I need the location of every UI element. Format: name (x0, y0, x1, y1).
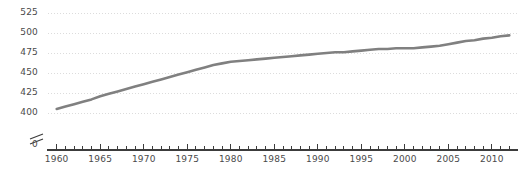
x-axis-tick-label: 1975 (167, 154, 207, 164)
data-series-line (57, 35, 510, 109)
x-axis-tick-label: 1995 (341, 154, 381, 164)
x-axis-tick-label: 1985 (254, 154, 294, 164)
y-axis-tick-label: 425 (2, 87, 38, 97)
x-axis-tick-label: 2010 (472, 154, 512, 164)
x-axis-tick-label: 1970 (124, 154, 164, 164)
x-axis (47, 144, 518, 150)
x-axis-tick-label: 1980 (211, 154, 251, 164)
x-axis-tick-label: 2000 (385, 154, 425, 164)
y-axis-tick-label: 450 (2, 67, 38, 77)
x-axis-tick-label: 1960 (37, 154, 77, 164)
gridlines (48, 13, 518, 113)
x-axis-tick-label: 2005 (428, 154, 468, 164)
line-chart: 4004254504755005250 19601965197019751980… (0, 0, 532, 174)
x-axis-tick-label: 1965 (80, 154, 120, 164)
chart-canvas (0, 0, 532, 174)
y-axis-tick-label: 525 (2, 7, 38, 17)
y-axis-zero-label: 0 (2, 139, 38, 149)
y-axis-tick-label: 500 (2, 27, 38, 37)
y-axis-tick-label: 475 (2, 47, 38, 57)
y-axis-tick-label: 400 (2, 107, 38, 117)
x-axis-tick-label: 1990 (298, 154, 338, 164)
